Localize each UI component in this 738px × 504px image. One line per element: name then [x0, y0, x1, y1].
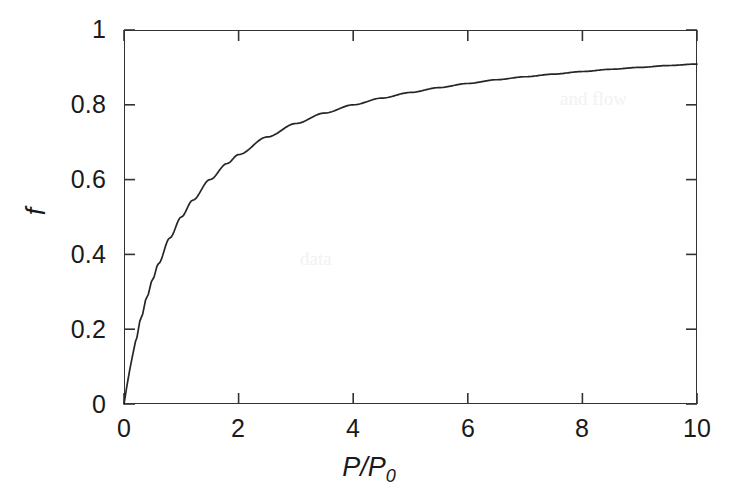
ytick-label: 1 [30, 17, 106, 42]
ytick-label: 0.2 [30, 317, 106, 342]
data-curve [124, 30, 697, 404]
y-axis-label: f [21, 190, 52, 234]
x-axis-label-denominator: P [368, 452, 386, 482]
x-axis-label-numerator: P [342, 452, 360, 482]
x-axis-label: P/P0 [0, 452, 738, 487]
xtick-label: 0 [94, 416, 154, 441]
chart-figure: and flow data [0, 0, 738, 504]
ytick-label: 0 [30, 392, 106, 417]
x-axis-label-subscript: 0 [386, 466, 396, 486]
xtick-label: 2 [208, 416, 268, 441]
ytick-label: 0.6 [30, 167, 106, 192]
x-axis-label-slash: / [360, 452, 368, 482]
xtick-label: 8 [552, 416, 612, 441]
xtick-label: 10 [667, 416, 727, 441]
ytick-label: 0.8 [30, 92, 106, 117]
xtick-label: 4 [323, 416, 383, 441]
curve-path-f [124, 64, 697, 404]
xtick-label: 6 [438, 416, 498, 441]
ytick-label: 0.4 [30, 242, 106, 267]
